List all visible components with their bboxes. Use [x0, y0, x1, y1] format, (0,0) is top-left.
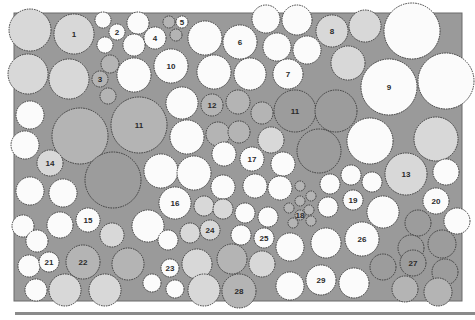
plant [311, 228, 341, 258]
plant-number-label: 22 [79, 258, 88, 267]
plant [234, 58, 266, 90]
plant-number-label: 18 [296, 211, 305, 220]
plant-number-label: 6 [238, 38, 243, 47]
plant-number-label: 1 [72, 30, 77, 39]
plant-circle [249, 251, 275, 277]
plant [367, 196, 399, 228]
plant [123, 34, 145, 56]
plant-11: 11 [111, 97, 167, 153]
plant-circle [433, 159, 459, 185]
plant [284, 203, 294, 213]
plant-circle [127, 12, 149, 34]
plant-number-label: 10 [167, 62, 176, 71]
plant [235, 203, 255, 223]
plant [158, 230, 178, 250]
plant-circle [349, 10, 381, 42]
plant [392, 276, 418, 302]
plant [49, 59, 89, 99]
plant [258, 127, 284, 153]
plant [188, 274, 220, 306]
plant-circle [306, 191, 316, 201]
plant [405, 210, 431, 236]
plant-circle [228, 121, 250, 143]
plant-circle [158, 230, 178, 250]
plant-circle [213, 199, 233, 219]
plant [318, 197, 338, 217]
plant-circle [306, 216, 316, 226]
plant-3: 3 [92, 71, 108, 87]
plant-4: 4 [144, 27, 166, 49]
plant-circle [231, 225, 251, 245]
plant [231, 225, 251, 245]
plant-circle [258, 127, 284, 153]
plant-circle [243, 174, 267, 198]
plant-circle [100, 223, 124, 247]
plant [144, 154, 178, 188]
plant [166, 280, 184, 298]
plant-circle [166, 87, 198, 119]
plant [306, 216, 316, 226]
plant-circle [347, 118, 393, 164]
plant-2: 2 [109, 24, 125, 40]
plant-circle [112, 248, 144, 280]
plant [100, 88, 116, 104]
plant [271, 152, 295, 176]
plant-circle [85, 152, 141, 208]
plant-number-label: 17 [248, 155, 257, 164]
plant-circle [188, 274, 220, 306]
plant [16, 101, 44, 129]
plant [8, 54, 48, 94]
plant-25: 25 [254, 228, 274, 248]
plant-circle [177, 156, 211, 190]
plant-group: 1245683107911121114171813151619202122242… [8, 3, 474, 308]
plant-circle [97, 37, 113, 53]
plant-circle [143, 274, 161, 292]
plant-circle [418, 53, 474, 109]
plant [349, 10, 381, 42]
plant-circle [16, 177, 44, 205]
plant-circle [100, 88, 116, 104]
plant-29: 29 [306, 265, 336, 295]
plant-circle [166, 280, 184, 298]
plant [180, 223, 200, 243]
plant-18: 18 [295, 210, 305, 220]
plant-10: 10 [154, 49, 188, 83]
plant-number-label: 29 [317, 276, 326, 285]
plant-circle [8, 54, 48, 94]
plant [25, 279, 47, 301]
plant-circle [170, 29, 182, 41]
plant [295, 196, 305, 206]
plant [143, 274, 161, 292]
plant-circle [288, 218, 298, 228]
plant-circle [89, 274, 121, 306]
plant [251, 102, 273, 124]
plant [276, 272, 304, 300]
plant-circle [362, 172, 382, 192]
plant [295, 181, 305, 191]
plant-6: 6 [223, 25, 257, 59]
plant-circle [331, 46, 365, 80]
plant-19: 19 [343, 190, 363, 210]
plant-circle [197, 55, 231, 89]
plant-circle [18, 255, 40, 277]
plant [112, 248, 144, 280]
plant [297, 129, 341, 173]
plant-circle [341, 165, 361, 185]
plant-8: 8 [316, 15, 348, 47]
plant-circle [276, 272, 304, 300]
plant [315, 90, 357, 132]
plant-27: 27 [400, 250, 426, 276]
plant [370, 254, 396, 280]
plant-circle [318, 197, 338, 217]
plant-circle [276, 233, 304, 261]
plant [424, 278, 452, 306]
plant [263, 33, 291, 61]
plant [18, 255, 40, 277]
plant-circle [293, 36, 321, 64]
plant-circle [144, 154, 178, 188]
plant [100, 223, 124, 247]
plant-15: 15 [76, 208, 100, 232]
plant-circle [414, 117, 458, 161]
plant-circle [367, 196, 399, 228]
plant [177, 156, 211, 190]
